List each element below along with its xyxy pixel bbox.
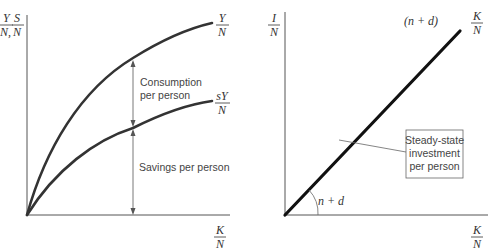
- svg-text:N: N: [217, 25, 227, 39]
- svg-text:Y: Y: [219, 11, 227, 25]
- output-per-person-curve: [27, 23, 212, 215]
- left-panel: Y N, S N K N Y N sY N: [0, 11, 230, 250]
- savings-curve-label: sY N: [215, 89, 230, 117]
- right-y-axis-label: I N: [268, 11, 280, 39]
- investment-line: [285, 31, 460, 215]
- svg-text:K: K: [215, 223, 225, 237]
- right-panel: I N K N (n + d) K N n + d Ste: [268, 9, 488, 250]
- diagram-canvas: Y N, S N K N Y N sY N: [0, 0, 490, 250]
- svg-text:Steady-state: Steady-state: [405, 134, 464, 146]
- steady-state-investment-box: Steady-state investment per person: [405, 130, 464, 178]
- svg-text:N: N: [217, 103, 227, 117]
- svg-text:Y: Y: [3, 11, 11, 25]
- left-y-axis-label: Y N, S N: [0, 11, 24, 39]
- svg-text:N: N: [215, 237, 225, 250]
- savings-per-person-curve: [27, 101, 212, 215]
- output-curve-label: Y N: [216, 11, 229, 39]
- slope-angle-arc: [309, 190, 318, 215]
- svg-text:K: K: [472, 223, 482, 237]
- svg-text:(n + d): (n + d): [404, 14, 438, 28]
- investment-line-label: (n + d) K N: [404, 9, 483, 37]
- svg-text:investment: investment: [409, 147, 460, 159]
- left-x-axis-label: K N: [214, 223, 226, 250]
- svg-text:I: I: [271, 11, 277, 25]
- savings-label: Savings per person: [139, 161, 230, 173]
- svg-text:per person: per person: [409, 160, 459, 172]
- svg-text:K: K: [472, 9, 482, 23]
- slope-label: n + d: [318, 194, 345, 208]
- svg-text:N: N: [472, 23, 482, 37]
- consumption-label-line2: per person: [140, 89, 190, 101]
- svg-text:N: N: [12, 25, 22, 39]
- svg-text:sY: sY: [216, 89, 229, 103]
- svg-text:N,: N,: [0, 25, 11, 39]
- consumption-arrow: [131, 60, 136, 127]
- savings-arrow: [131, 129, 136, 215]
- right-x-axis-label: K N: [471, 223, 483, 250]
- consumption-label-line1: Consumption: [140, 76, 202, 88]
- svg-text:S: S: [14, 11, 20, 25]
- svg-text:N: N: [472, 237, 482, 250]
- svg-text:N: N: [269, 25, 279, 39]
